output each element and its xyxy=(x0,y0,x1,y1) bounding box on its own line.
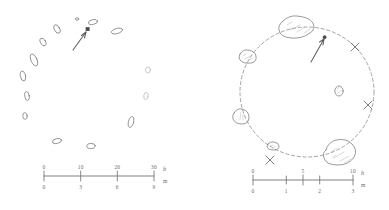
stone-outline xyxy=(233,109,249,124)
scale-label-m: 9 xyxy=(153,184,156,190)
scale-unit-m: m xyxy=(361,182,366,188)
scale-unit-ft: ft xyxy=(361,170,365,176)
marker-point xyxy=(86,28,89,31)
stone-outline xyxy=(279,16,314,38)
stone-outline xyxy=(75,18,78,21)
x-mark xyxy=(364,101,372,109)
stone-outline xyxy=(39,37,48,47)
stone-hatch xyxy=(337,87,342,93)
scale-label-m: 2 xyxy=(318,188,321,194)
right-plan-stones xyxy=(233,16,356,165)
scale-label-m: 0 xyxy=(43,184,46,190)
stone-outline xyxy=(52,138,62,145)
scale-unit-ft: ft xyxy=(163,166,167,172)
site-plan-figure: 0 10 20 30 0 3 6 9 ft m xyxy=(0,0,389,210)
left-scale-bar: 0 10 20 30 0 3 6 9 ft m xyxy=(43,164,168,190)
stone-outline xyxy=(29,53,40,67)
stone-outline xyxy=(127,116,135,128)
stone-outline xyxy=(19,71,26,82)
scale-label-ft: 10 xyxy=(350,168,356,174)
stone-outline xyxy=(323,140,355,166)
scale-label-ft: 10 xyxy=(78,164,84,170)
scale-label-m: 1 xyxy=(285,188,288,194)
stone-outline xyxy=(87,143,96,149)
right-scale-bar: 0 5 10 0 1 2 3 ft m xyxy=(252,168,366,194)
arrow-shaft xyxy=(73,32,86,50)
site-plan-canvas: 0 10 20 30 0 3 6 9 ft m xyxy=(0,0,389,210)
scale-label-ft: 30 xyxy=(151,164,157,170)
arrow-shaft xyxy=(311,39,324,62)
stone-outline xyxy=(267,142,279,150)
scale-label-ft: 5 xyxy=(302,168,305,174)
stone-outline xyxy=(111,27,124,35)
x-mark xyxy=(351,43,359,51)
scale-label-ft: 0 xyxy=(252,168,255,174)
right-plan-x-marks xyxy=(266,43,372,164)
scale-label-m: 0 xyxy=(252,188,255,194)
left-plan-north-arrow xyxy=(73,28,89,51)
scale-label-m: 6 xyxy=(116,184,119,190)
stone-outline xyxy=(143,92,148,100)
scale-label-m: 3 xyxy=(352,188,355,194)
marker-point xyxy=(323,36,326,39)
stone-outline xyxy=(24,91,30,100)
right-plan-panel: 0 5 10 0 1 2 3 ft m xyxy=(233,16,374,194)
scale-label-ft: 0 xyxy=(43,164,46,170)
left-plan-panel: 0 10 20 30 0 3 6 9 ft m xyxy=(19,18,168,190)
scale-unit-m: m xyxy=(163,178,168,184)
right-plan-north-arrow xyxy=(311,36,326,62)
stone-outline xyxy=(22,112,27,119)
scale-label-m: 3 xyxy=(79,184,82,190)
scale-label-ft: 20 xyxy=(114,164,120,170)
x-mark xyxy=(266,156,274,164)
stone-outline xyxy=(88,19,98,26)
stone-outline xyxy=(53,24,62,35)
stone-outline xyxy=(146,67,151,73)
